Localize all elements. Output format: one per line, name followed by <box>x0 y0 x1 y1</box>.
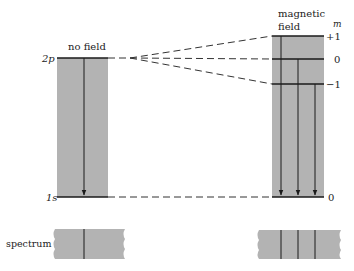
label-2p: 2p <box>41 53 55 64</box>
label-1s-m-0: 0 <box>328 192 334 203</box>
label-1s: 1s <box>46 192 58 203</box>
no-field-box <box>57 58 108 197</box>
zeeman-effect-diagram: no field magnetic field m 2p 1s +1 0 −1 … <box>0 0 354 271</box>
m-header: m <box>333 19 342 29</box>
diagram-svg: no field magnetic field m 2p 1s +1 0 −1 … <box>0 0 354 271</box>
spectrum-label: spectrum <box>6 238 51 249</box>
dashed-connectors <box>108 36 272 197</box>
spectrum-magnetic-field <box>258 230 342 259</box>
no-field-panel <box>57 58 108 197</box>
spectrum-no-field <box>54 229 126 259</box>
label-m-minus1: −1 <box>326 79 341 90</box>
label-m-0: 0 <box>334 54 340 65</box>
magnetic-field-panel <box>272 36 324 197</box>
label-m-plus1: +1 <box>326 31 341 42</box>
magnetic-title-1: magnetic <box>278 8 325 19</box>
magnetic-title-2: field <box>278 21 301 32</box>
no-field-title: no field <box>68 41 106 52</box>
